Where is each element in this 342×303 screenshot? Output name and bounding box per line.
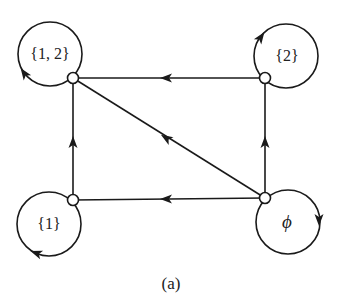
label-phi: ϕ xyxy=(282,211,292,232)
label-s2: {2} xyxy=(275,47,298,64)
node-s12 xyxy=(68,73,79,84)
node-phi xyxy=(260,193,271,204)
label-s1: {1} xyxy=(37,215,60,232)
figure-caption: (a) xyxy=(162,274,181,293)
loop-arrow-icon xyxy=(29,247,43,260)
state-diagram: {1, 2} {2} {1} ϕ (a) xyxy=(0,0,342,303)
node-s1 xyxy=(68,195,79,206)
label-s12: {1, 2} xyxy=(30,45,69,62)
node-s2 xyxy=(260,73,271,84)
